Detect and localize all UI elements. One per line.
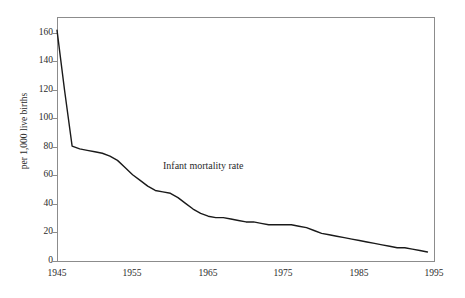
y-axis-title: per 1,000 live births [19,61,29,201]
y-tick-label: 20 [27,227,53,237]
y-tick-mark [52,204,57,205]
y-tick-label: 120 [27,85,53,95]
y-tick-mark [52,33,57,34]
y-tick-mark [52,147,57,148]
y-tick-label: 0 [27,256,53,266]
y-tick-mark [52,61,57,62]
x-tick-label: 1985 [334,268,384,278]
y-tick-label: 100 [27,113,53,123]
y-tick-label: 60 [27,170,53,180]
y-tick-label: 140 [27,56,53,66]
y-tick-mark [52,118,57,119]
y-tick-mark [52,90,57,91]
x-tick-label: 1965 [183,268,233,278]
y-tick-mark [52,175,57,176]
y-tick-label: 80 [27,142,53,152]
series-annotation-label: Infant mortality rate [163,160,244,171]
y-tick-label: 160 [27,28,53,38]
y-tick-mark [52,261,57,262]
x-tick-label: 1945 [32,268,82,278]
x-tick-label: 1955 [107,268,157,278]
x-tick-label: 1995 [409,268,459,278]
x-tick-label: 1975 [258,268,308,278]
infant-mortality-chart: 160 140 120 100 80 60 40 20 0 1945 1955 … [0,0,465,298]
y-tick-label: 40 [27,199,53,209]
y-tick-mark [52,232,57,233]
plot-area-frame [57,17,435,262]
